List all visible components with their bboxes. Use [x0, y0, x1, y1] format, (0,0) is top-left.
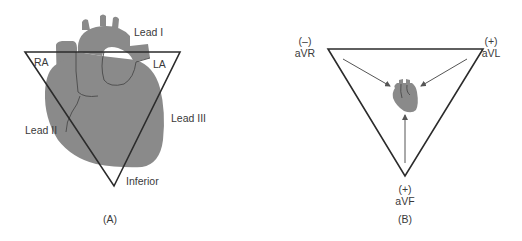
- panel-b: (–) aVR (+) aVL (+) aVF (B): [295, 35, 501, 225]
- label-avl: aVL: [482, 47, 501, 59]
- label-lead-ii: Lead II: [25, 124, 57, 136]
- caption-b: (B): [398, 213, 412, 225]
- label-lead-iii: Lead III: [171, 112, 206, 124]
- label-avl-polarity: (+): [484, 35, 497, 47]
- label-ra: RA: [34, 56, 49, 68]
- label-avr: aVR: [295, 47, 316, 59]
- einthoven-triangle-figure: Lead I RA LA Lead II Lead III Inferior (…: [0, 0, 522, 241]
- label-avf-polarity: (+): [398, 183, 411, 195]
- panel-a: Lead I RA LA Lead II Lead III Inferior (…: [25, 15, 206, 226]
- label-inferior: Inferior: [126, 175, 159, 187]
- caption-a: (A): [103, 213, 117, 225]
- label-avr-polarity: (–): [299, 35, 312, 47]
- arrow-avl: [421, 59, 467, 86]
- label-avf: aVF: [395, 195, 414, 207]
- heart-icon-small: [393, 79, 418, 112]
- label-la: LA: [153, 58, 166, 70]
- label-lead-i: Lead I: [134, 26, 163, 38]
- arrow-avr: [343, 59, 390, 86]
